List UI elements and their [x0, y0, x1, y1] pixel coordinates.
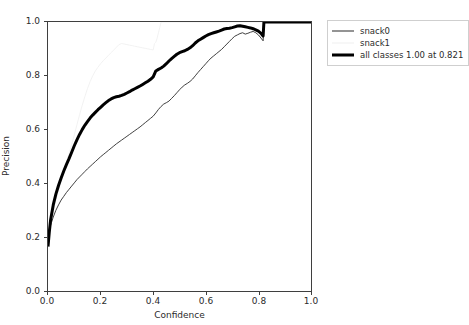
legend-item-all-classes[interactable]: all classes 1.00 at 0.821	[332, 49, 463, 61]
xtick-mark	[47, 292, 48, 295]
xtick-mark	[311, 292, 312, 295]
xtick-label-1.0: 1.0	[304, 297, 318, 306]
xtick-mark	[206, 292, 207, 295]
ytick-label-0.6: 0.6	[18, 125, 40, 134]
ytick-label-0.0: 0.0	[18, 287, 40, 296]
legend: snack0 snack1 all classes 1.00 at 0.821	[327, 20, 469, 66]
legend-label: snack0	[360, 27, 390, 36]
ytick-label-0.2: 0.2	[18, 233, 40, 242]
ytick-label-1.0: 1.0	[18, 17, 40, 26]
xtick-mark	[259, 292, 260, 295]
legend-line-icon	[332, 38, 354, 48]
xtick-label-0.6: 0.6	[199, 297, 213, 306]
x-axis-label: Confidence	[47, 310, 312, 320]
legend-label: snack1	[360, 39, 390, 48]
xtick-mark	[153, 292, 154, 295]
legend-item-snack1[interactable]: snack1	[332, 37, 463, 49]
xtick-label-0.4: 0.4	[146, 297, 160, 306]
xtick-label-0.8: 0.8	[252, 297, 266, 306]
plot-area	[47, 21, 312, 292]
legend-line-icon	[332, 26, 354, 36]
xtick-mark	[100, 292, 101, 295]
y-axis-label: Precision	[1, 136, 11, 176]
series-line-all-classes	[48, 22, 311, 247]
ytick-label-0.8: 0.8	[18, 71, 40, 80]
legend-line-icon	[332, 50, 354, 60]
xtick-label-0.2: 0.2	[93, 297, 107, 306]
xtick-label-0.0: 0.0	[40, 297, 54, 306]
series-line-snack0	[48, 22, 311, 245]
legend-label: all classes 1.00 at 0.821	[360, 51, 463, 60]
curves-svg	[48, 22, 311, 291]
ytick-label-0.4: 0.4	[18, 179, 40, 188]
series-line-snack1	[48, 22, 311, 248]
legend-item-snack0[interactable]: snack0	[332, 25, 463, 37]
